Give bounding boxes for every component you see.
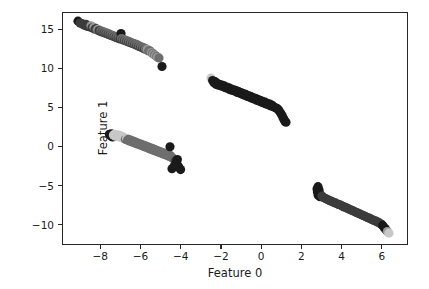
y-tick-mark: [58, 185, 62, 186]
y-tick-label: 15: [0, 23, 54, 35]
x-tick-label: 6: [379, 250, 386, 262]
scatter-plot-figure: 151050−5−10 −8−6−4−20246 Feature 0 Featu…: [0, 0, 429, 289]
plot-area: [62, 12, 408, 245]
y-tick-label: 10: [0, 62, 54, 74]
y-tick-mark: [58, 107, 62, 108]
upper-left-cluster: [73, 17, 166, 71]
x-tick-mark: [341, 245, 342, 249]
x-tick-label: 0: [258, 250, 265, 262]
scatter-point: [157, 62, 166, 71]
y-tick-mark: [58, 146, 62, 147]
x-tick-mark: [100, 245, 101, 249]
x-tick-label: −4: [173, 250, 188, 262]
x-tick-mark: [180, 245, 181, 249]
x-tick-mark: [261, 245, 262, 249]
scatter-point: [154, 53, 163, 62]
y-axis-label: Feature 1: [95, 12, 111, 245]
y-tick-mark: [58, 29, 62, 30]
scatter-point: [165, 142, 174, 151]
middle-left-cluster: [105, 129, 185, 174]
y-tick-mark: [58, 68, 62, 69]
x-tick-mark: [220, 245, 221, 249]
scatter-point: [384, 229, 393, 238]
x-tick-label: 2: [298, 250, 305, 262]
x-tick-label: 4: [338, 250, 345, 262]
x-tick-label: −8: [92, 250, 107, 262]
x-tick-mark: [140, 245, 141, 249]
x-tick-mark: [381, 245, 382, 249]
scatter-point: [281, 118, 290, 127]
x-axis-label: Feature 0: [62, 266, 408, 280]
lower-right-cluster: [312, 182, 393, 238]
center-cluster: [206, 74, 290, 127]
x-tick-label: −2: [213, 250, 228, 262]
y-tick-label: 0: [0, 140, 54, 152]
y-tick-label: −5: [0, 180, 54, 192]
y-tick-label: −10: [0, 219, 54, 231]
scatter-points-layer: [63, 13, 407, 244]
scatter-point: [169, 162, 178, 171]
y-tick-label: 5: [0, 101, 54, 113]
y-tick-mark: [58, 224, 62, 225]
x-tick-label: −6: [133, 250, 148, 262]
x-tick-mark: [301, 245, 302, 249]
